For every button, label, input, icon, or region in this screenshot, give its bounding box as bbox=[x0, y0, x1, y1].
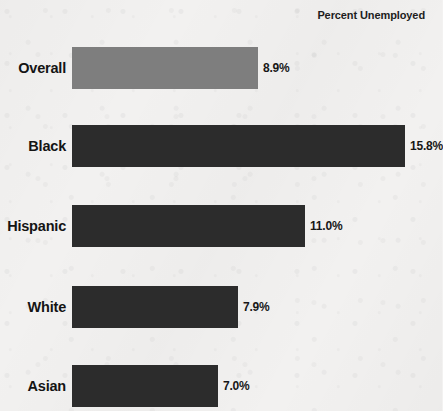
bar-value-label-asian: 7.0% bbox=[223, 365, 250, 407]
bar-category-label-black: Black bbox=[0, 125, 66, 167]
bar-overall bbox=[72, 47, 258, 89]
bar-value-label-white: 7.9% bbox=[243, 286, 270, 328]
bar-value-label-black: 15.8% bbox=[410, 125, 443, 167]
table-row: Hispanic 11.0% bbox=[0, 205, 442, 247]
bar-white bbox=[72, 286, 238, 328]
bar-category-label-white: White bbox=[0, 286, 66, 328]
bar-value-label-hispanic: 11.0% bbox=[310, 205, 342, 247]
table-row: Asian 7.0% bbox=[0, 365, 442, 407]
bar-category-label-hispanic: Hispanic bbox=[0, 205, 66, 247]
table-row: Overall 8.9% bbox=[0, 47, 442, 89]
table-row: White 7.9% bbox=[0, 286, 442, 328]
bar-category-label-asian: Asian bbox=[0, 365, 66, 407]
bar-category-label-overall: Overall bbox=[0, 47, 66, 89]
bar-hispanic bbox=[72, 205, 305, 247]
bar-black bbox=[72, 125, 405, 167]
bar-value-label-overall: 8.9% bbox=[263, 47, 290, 89]
table-row: Black 15.8% bbox=[0, 125, 442, 167]
bar-asian bbox=[72, 365, 218, 407]
chart-title: Percent Unemployed bbox=[317, 9, 425, 21]
